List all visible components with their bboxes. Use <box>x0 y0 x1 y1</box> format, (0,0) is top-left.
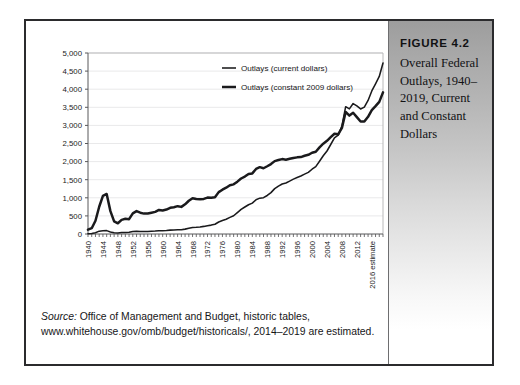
series-line-2 <box>88 92 383 229</box>
source-text: Office of Management and Budget, histori… <box>41 311 374 337</box>
x-tick-label: 1988 <box>263 241 272 258</box>
figure-container: 05001,0001,5002,0002,5003,0003,5004,0004… <box>0 0 520 385</box>
legend-label-2: Outlays (constant 2009 dollars) <box>241 83 353 92</box>
y-tick-label: 5,000 <box>62 49 82 58</box>
x-tick-label: 1968 <box>189 241 198 258</box>
x-axis-ticks: 1940194419481952195619601964196819721976… <box>84 241 377 289</box>
x-tick-label: 1992 <box>278 241 287 258</box>
caption-panel: FIGURE 4.2 Overall Federal Outlays, 1940… <box>388 21 492 364</box>
figure-title: Overall Federal Outlays, 1940–2019, Curr… <box>400 55 482 144</box>
source-label: Source: <box>41 311 77 322</box>
y-tick-label: 1,500 <box>62 176 82 185</box>
y-tick-label: 3,500 <box>62 103 82 112</box>
chart-legend: Outlays (current dollars)Outlays (consta… <box>222 64 353 92</box>
y-tick-label: 1,000 <box>62 194 82 203</box>
caption-inner: FIGURE 4.2 Overall Federal Outlays, 1940… <box>389 21 492 144</box>
x-tick-label: 2004 <box>323 241 332 258</box>
outlays-line-chart: 05001,0001,5002,0002,5003,0003,5004,0004… <box>26 21 388 311</box>
x-tick-label: 1976 <box>218 241 227 258</box>
x-tick-label: 2012 <box>353 241 362 258</box>
x-tick-label: 1964 <box>174 241 183 258</box>
figure-frame: 05001,0001,5002,0002,5003,0003,5004,0004… <box>24 19 494 366</box>
x-tick-label: 1996 <box>293 241 302 258</box>
x-tick-label: 1980 <box>233 241 242 258</box>
y-tick-label: 500 <box>69 212 83 221</box>
y-tick-label: 0 <box>78 230 83 239</box>
y-tick-label: 2,500 <box>62 139 82 148</box>
x-tick-label: 1984 <box>248 241 257 258</box>
x-tick-label: 1956 <box>144 241 153 258</box>
x-tick-label: 1960 <box>159 241 168 258</box>
x-tick-label: 1940 <box>84 241 93 258</box>
y-axis-ticks: 05001,0001,5002,0002,5003,0003,5004,0004… <box>62 49 88 239</box>
x-tick-label: 1952 <box>129 241 138 258</box>
x-tick-label: 2008 <box>338 241 347 258</box>
x-tick-label: 1944 <box>99 241 108 258</box>
x-tick-label: 2000 <box>308 241 317 258</box>
y-tick-label: 3,000 <box>62 121 82 130</box>
chart-area: 05001,0001,5002,0002,5003,0003,5004,0004… <box>26 21 388 311</box>
x-tick-label: 1972 <box>203 241 212 258</box>
x-tick-label: 1948 <box>114 241 123 258</box>
legend-label-1: Outlays (current dollars) <box>241 64 328 73</box>
y-tick-label: 4,000 <box>62 85 82 94</box>
y-tick-label: 4,500 <box>62 67 82 76</box>
x-tick-label: 2016 estimate <box>368 241 377 289</box>
y-tick-label: 2,000 <box>62 157 82 166</box>
figure-number: FIGURE 4.2 <box>400 37 482 50</box>
source-note: Source: Office of Management and Budget,… <box>41 309 381 340</box>
